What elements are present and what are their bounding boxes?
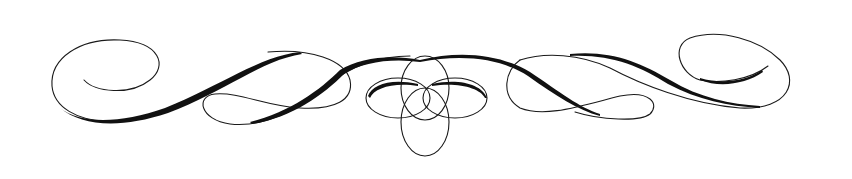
right-flourish [420, 34, 790, 119]
center-knot [366, 56, 487, 156]
knot-bottom-ellipse [401, 88, 449, 156]
right-curl-thick [700, 70, 763, 84]
calligraphic-flourish [0, 0, 852, 179]
left-curl [52, 40, 159, 121]
left-flourish [52, 40, 420, 125]
left-inner-swash [250, 57, 420, 124]
right-small-loop [507, 60, 654, 119]
